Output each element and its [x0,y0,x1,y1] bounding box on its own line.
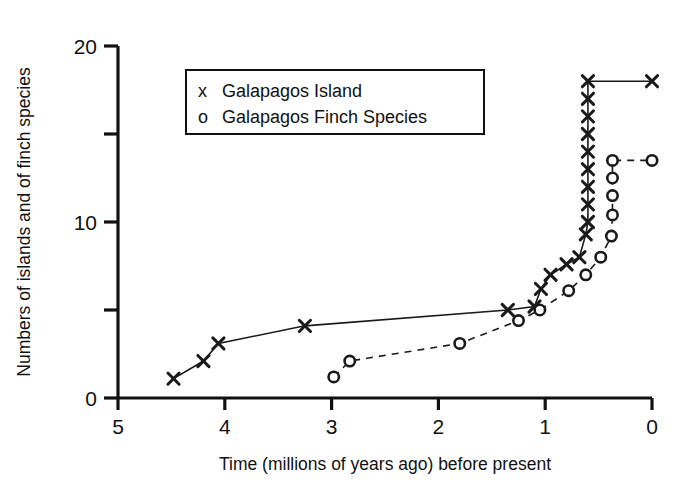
marker-o-11 [607,173,617,183]
x-axis-title: Time (millions of years ago) before pres… [219,454,551,474]
y-tick-label-0: 0 [85,387,97,410]
marker-o-1 [345,356,355,366]
x-tick-label-4: 4 [219,415,231,438]
marker-x-1 [198,355,209,366]
y-axis-ticks [104,46,118,398]
marker-x-7 [545,269,556,280]
marker-o-8 [606,231,616,241]
marker-x-0 [168,373,179,384]
series-galapagos-finch-species [329,155,658,382]
marker-o-4 [535,305,545,315]
x-tick-label-2: 2 [433,415,445,438]
x-tick-label-0: 0 [646,415,658,438]
y-axis-tick-labels: 01020 [74,35,97,410]
marker-x-8 [561,259,572,270]
marker-o-10 [607,190,617,200]
marker-o-6 [581,270,591,280]
marker-o-5 [563,285,573,295]
y-tick-label-20: 20 [74,35,97,58]
chart-canvas: 543210 01020 Time (millions of years ago… [0,0,688,500]
legend-label-galapagos-island: Galapagos Island [222,81,362,101]
chart-figure: 543210 01020 Time (millions of years ago… [0,0,688,500]
marker-o-7 [596,252,606,262]
marker-o-3 [513,315,523,325]
y-tick-label-10: 10 [74,211,97,234]
y-axis-title: Numbers of islands and of finch species [14,67,34,377]
marker-o-2 [455,338,465,348]
x-tick-label-3: 3 [326,415,338,438]
legend-marker-x: x [198,81,207,101]
x-tick-label-1: 1 [539,415,551,438]
legend-label-galapagos-finch-species: Galapagos Finch Species [222,107,427,127]
legend-marker-o: o [198,107,208,127]
marker-x-6 [535,283,546,294]
marker-o-9 [607,210,617,220]
chart-legend: x Galapagos Island o Galapagos Finch Spe… [186,70,484,134]
marker-o-0 [329,372,339,382]
marker-o-12 [607,155,617,165]
x-tick-label-5: 5 [112,415,124,438]
x-axis-ticks [118,398,652,410]
marker-o-13 [647,155,657,165]
marker-x-9 [574,252,585,263]
x-axis-tick-labels: 543210 [112,415,658,438]
series-line-2 [334,160,652,376]
